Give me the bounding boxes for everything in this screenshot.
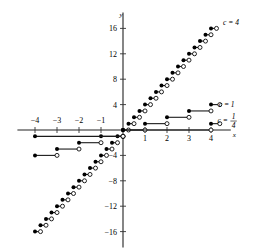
curve-label-denominator: 4	[232, 121, 236, 130]
closed-endpoint	[165, 115, 169, 119]
closed-endpoint	[143, 103, 147, 107]
closed-endpoint	[165, 77, 169, 81]
open-endpoint	[187, 115, 191, 119]
open-endpoint	[116, 141, 120, 145]
step-function-plot: xy−4−3−2−11234161284−4−8−12−16c = 4c = 1…	[0, 0, 258, 249]
closed-endpoint	[66, 192, 70, 196]
curve-label-group: c = 4c = 1c =14	[218, 18, 240, 130]
curve-label-c1: c = 1	[219, 100, 235, 109]
x-tick-label: 1	[143, 134, 147, 143]
closed-endpoint	[204, 33, 208, 37]
closed-endpoint	[44, 217, 48, 221]
x-tick-label: −4	[31, 116, 40, 125]
x-tick-label: −1	[97, 116, 106, 125]
closed-endpoint	[99, 153, 103, 157]
open-endpoint	[160, 90, 164, 94]
x-axis-label: x	[232, 131, 237, 139]
closed-endpoint	[39, 223, 43, 227]
closed-endpoint	[198, 39, 202, 43]
closed-endpoint	[154, 90, 158, 94]
open-endpoint	[61, 204, 65, 208]
open-endpoint	[94, 166, 98, 170]
y-tick-label: −8	[108, 177, 117, 186]
open-endpoint	[193, 52, 197, 56]
closed-endpoint	[127, 122, 131, 126]
closed-endpoint	[88, 166, 92, 170]
closed-endpoint	[149, 96, 153, 100]
closed-endpoint	[55, 147, 59, 151]
closed-endpoint	[55, 204, 59, 208]
open-endpoint	[99, 160, 103, 164]
closed-endpoint	[143, 122, 147, 126]
y-tick-label: 8	[113, 75, 117, 84]
closed-endpoint	[33, 153, 37, 157]
open-endpoint	[204, 39, 208, 43]
closed-endpoint	[160, 84, 164, 88]
open-endpoint	[187, 58, 191, 62]
open-endpoint	[138, 115, 142, 119]
open-endpoint	[215, 26, 219, 30]
closed-endpoint	[209, 122, 213, 126]
closed-endpoint	[105, 147, 109, 151]
open-endpoint	[39, 230, 43, 234]
x-tick-label: 4	[209, 134, 213, 143]
closed-endpoint	[77, 179, 81, 183]
y-tick-label: 16	[109, 24, 117, 33]
open-endpoint	[209, 128, 213, 132]
y-tick-label: 12	[109, 50, 117, 59]
closed-endpoint	[61, 198, 65, 202]
open-endpoint	[182, 65, 186, 69]
closed-endpoint	[193, 45, 197, 49]
open-endpoint	[72, 192, 76, 196]
closed-endpoint	[33, 230, 37, 234]
figure-canvas: xy−4−3−2−11234161284−4−8−12−16c = 4c = 1…	[0, 0, 258, 249]
closed-endpoint	[138, 109, 142, 113]
curve-label-numerator: 1	[232, 112, 236, 121]
x-tick-label: −3	[53, 116, 62, 125]
closed-endpoint	[209, 26, 213, 30]
closed-endpoint	[132, 115, 136, 119]
closed-endpoint	[77, 141, 81, 145]
open-endpoint	[132, 122, 136, 126]
x-tick-label: 3	[187, 134, 191, 143]
open-endpoint	[209, 109, 213, 113]
open-endpoint	[198, 45, 202, 49]
open-endpoint	[77, 147, 81, 151]
closed-endpoint	[94, 160, 98, 164]
y-tick-label: −16	[104, 228, 117, 237]
open-endpoint	[88, 172, 92, 176]
open-endpoint	[121, 134, 125, 138]
x-tick-label: 2	[165, 134, 169, 143]
closed-endpoint	[171, 71, 175, 75]
closed-endpoint	[187, 52, 191, 56]
y-tick-label: −4	[108, 151, 117, 160]
open-endpoint	[55, 211, 59, 215]
closed-endpoint	[182, 58, 186, 62]
open-endpoint	[149, 103, 153, 107]
open-endpoint	[50, 217, 54, 221]
open-endpoint	[143, 109, 147, 113]
closed-endpoint	[33, 134, 37, 138]
open-endpoint	[110, 147, 114, 151]
open-endpoint	[176, 71, 180, 75]
open-endpoint	[154, 96, 158, 100]
open-endpoint	[55, 153, 59, 157]
open-endpoint	[165, 84, 169, 88]
closed-endpoint	[83, 172, 87, 176]
closed-endpoint	[50, 211, 54, 215]
curve-label-c4: c = 4	[223, 18, 239, 27]
open-endpoint	[171, 77, 175, 81]
open-endpoint	[44, 223, 48, 227]
open-endpoint	[99, 141, 103, 145]
x-tick-label: −2	[75, 116, 84, 125]
closed-endpoint	[176, 65, 180, 69]
closed-endpoint	[209, 103, 213, 107]
open-endpoint	[209, 33, 213, 37]
closed-endpoint	[121, 128, 125, 132]
open-endpoint	[77, 185, 81, 189]
open-endpoint	[83, 179, 87, 183]
open-endpoint	[105, 153, 109, 157]
curve-label-c025: c =	[218, 116, 228, 125]
closed-endpoint	[110, 141, 114, 145]
y-tick-label: −12	[104, 202, 117, 211]
